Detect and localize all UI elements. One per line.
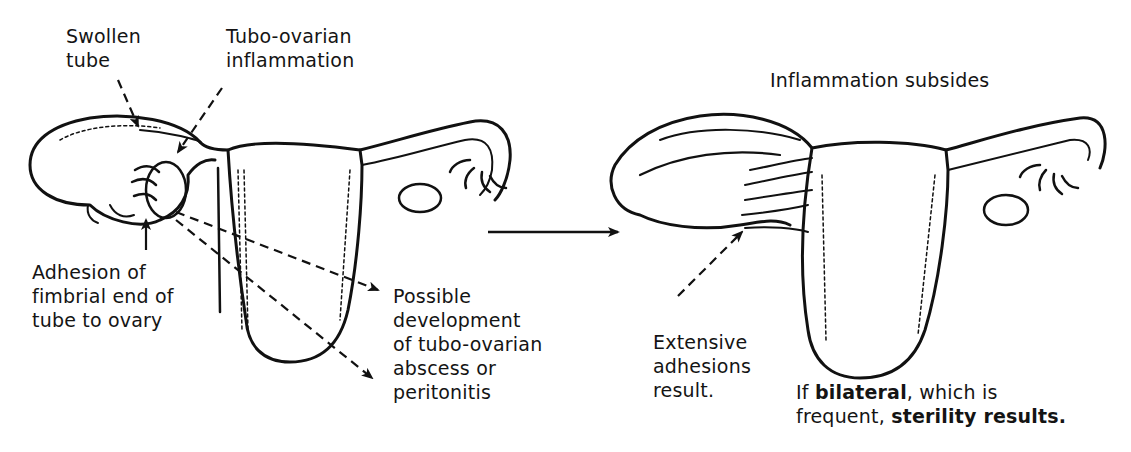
swollen-tube [30,116,215,224]
label-swollen-tube: Swollen tube [66,24,141,72]
right-ovary-left-panel [399,184,441,212]
abscess-arrow-2 [176,220,372,378]
abscess-arrow-1 [176,212,378,290]
inflamed-ovary [146,162,186,218]
label-tubo-ovarian-inflammation: Tubo-ovarian inflammation [226,24,354,72]
label-possible-development: Possible development of tubo-ovarian abs… [393,284,542,404]
label-extensive-adhesions: Extensive adhesions result. [653,330,751,402]
right-tube-right-panel [946,118,1105,168]
bold-bilateral: bilateral [815,381,907,403]
right-ovary-right-panel [984,195,1028,225]
label-bilateral-sterility: If bilateral, which is frequent, sterili… [796,380,1066,428]
label-inflammation-subsides: Inflammation subsides [770,68,989,92]
bold-sterility-results: sterility results. [891,405,1066,427]
label-adhesion-fimbrial: Adhesion of fimbrial end of tube to ovar… [32,260,174,332]
extensive-adhesions-arrow [678,232,742,296]
swollen-tube-arrow [118,80,138,126]
